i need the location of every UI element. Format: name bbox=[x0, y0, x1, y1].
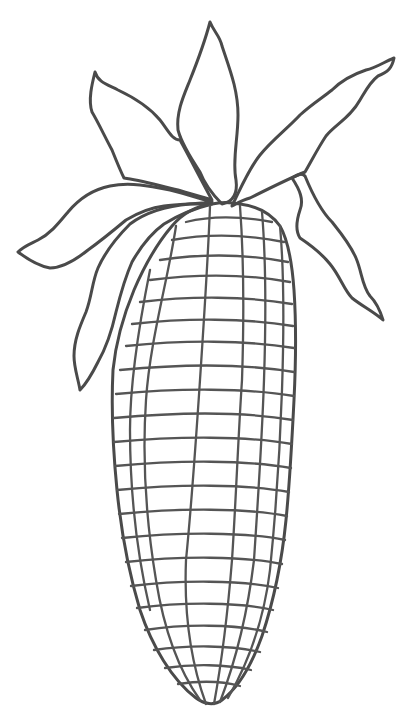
right-drooping-leaf bbox=[292, 174, 383, 320]
left-upper-leaf bbox=[90, 72, 212, 200]
corn-illustration bbox=[0, 0, 410, 724]
left-lower-leaf bbox=[18, 184, 212, 268]
right-upper-leaf bbox=[232, 58, 394, 206]
corn-cob bbox=[112, 203, 295, 705]
top-center-leaf bbox=[178, 22, 238, 204]
